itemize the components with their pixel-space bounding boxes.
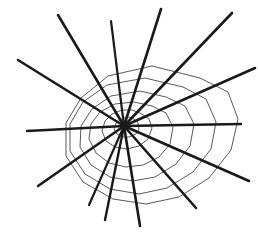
- web-hub: [121, 123, 127, 129]
- spider-web-canvas: [0, 0, 258, 248]
- spider-web-figure: [0, 0, 258, 248]
- web-hub-group: [121, 123, 127, 129]
